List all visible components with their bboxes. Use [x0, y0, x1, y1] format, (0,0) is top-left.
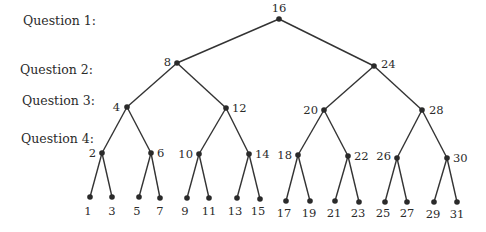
edge-30-29 — [434, 158, 447, 202]
edge-28-30 — [422, 110, 447, 158]
tree-node-8 — [174, 60, 180, 66]
edge-22-21 — [335, 156, 348, 201]
tree-node-24 — [371, 63, 377, 69]
tree-node-23 — [356, 199, 362, 205]
nodes-layer — [87, 16, 460, 205]
node-label-26: 26 — [376, 149, 391, 163]
tree-node-10 — [196, 151, 202, 157]
question-4-label: Question 4: — [21, 131, 94, 146]
edge-24-20 — [324, 66, 374, 110]
node-label-30: 30 — [453, 151, 468, 165]
node-label-20: 20 — [303, 103, 318, 117]
node-label-4: 4 — [113, 100, 120, 114]
tree-node-12 — [223, 105, 229, 111]
tree-node-2 — [99, 150, 105, 156]
tree-node-26 — [394, 155, 400, 161]
tree-node-14 — [246, 151, 252, 157]
node-label-27: 27 — [400, 206, 415, 220]
node-label-18: 18 — [277, 148, 292, 162]
edge-28-26 — [397, 110, 422, 158]
edge-16-24 — [279, 19, 374, 66]
node-label-7: 7 — [156, 204, 163, 218]
question-labels-layer: Question 1: Question 2: Question 3: Ques… — [20, 13, 96, 146]
tree-node-29 — [431, 199, 437, 205]
edge-10-11 — [199, 154, 209, 198]
node-label-25: 25 — [376, 206, 391, 220]
node-label-31: 31 — [450, 207, 465, 221]
node-label-22: 22 — [354, 149, 369, 163]
edge-4-6 — [127, 107, 151, 153]
node-label-2: 2 — [89, 146, 96, 160]
edge-18-19 — [298, 155, 310, 201]
node-label-19: 19 — [302, 206, 317, 220]
question-1-label: Question 1: — [23, 13, 96, 28]
tree-node-7 — [157, 195, 163, 201]
tree-node-16 — [276, 16, 282, 22]
node-label-3: 3 — [108, 204, 115, 218]
edge-16-8 — [177, 19, 279, 63]
tree-node-6 — [148, 150, 154, 156]
tree-node-11 — [206, 195, 212, 201]
tree-node-18 — [295, 152, 301, 158]
node-label-1: 1 — [84, 204, 91, 218]
edge-26-25 — [385, 158, 397, 202]
tree-node-20 — [321, 107, 327, 113]
tree-node-30 — [444, 155, 450, 161]
tree-node-5 — [136, 194, 142, 200]
edge-2-3 — [102, 153, 112, 197]
tree-node-27 — [404, 199, 410, 205]
tree-node-25 — [382, 199, 388, 205]
node-label-17: 17 — [277, 206, 292, 220]
node-label-6: 6 — [157, 146, 164, 160]
edges-layer — [90, 19, 457, 202]
node-label-11: 11 — [202, 204, 217, 218]
edge-20-22 — [324, 110, 348, 156]
node-label-8: 8 — [164, 55, 171, 69]
edge-24-28 — [374, 66, 422, 110]
node-label-9: 9 — [181, 204, 188, 218]
tree-node-9 — [184, 195, 190, 201]
tree-node-22 — [345, 153, 351, 159]
node-label-21: 21 — [327, 206, 342, 220]
edge-6-5 — [139, 153, 151, 197]
tree-node-15 — [257, 196, 263, 202]
edge-8-12 — [177, 63, 226, 108]
node-label-16: 16 — [272, 1, 287, 15]
node-label-5: 5 — [133, 204, 140, 218]
node-label-29: 29 — [426, 207, 441, 221]
edge-14-13 — [237, 154, 249, 198]
tree-node-28 — [419, 107, 425, 113]
tree-node-3 — [109, 194, 115, 200]
tree-node-1 — [87, 194, 93, 200]
node-label-12: 12 — [232, 101, 247, 115]
node-label-23: 23 — [351, 206, 366, 220]
node-label-13: 13 — [228, 204, 243, 218]
edge-8-4 — [127, 63, 177, 107]
question-3-label: Question 3: — [22, 93, 95, 108]
tree-node-31 — [454, 199, 460, 205]
edge-12-10 — [199, 108, 226, 154]
node-label-15: 15 — [251, 204, 266, 218]
node-label-10: 10 — [178, 147, 193, 161]
tree-node-21 — [332, 198, 338, 204]
binary-tree-diagram: 1682441220282610141822263013579111315171… — [0, 0, 486, 232]
node-label-24: 24 — [381, 57, 396, 71]
node-label-14: 14 — [255, 147, 270, 161]
tree-node-17 — [283, 198, 289, 204]
edge-26-27 — [397, 158, 407, 202]
tree-node-13 — [234, 195, 240, 201]
node-label-28: 28 — [429, 103, 444, 117]
tree-node-19 — [307, 198, 313, 204]
tree-node-4 — [124, 104, 130, 110]
question-2-label: Question 2: — [20, 62, 93, 77]
tree-canvas: 1682441220282610141822263013579111315171… — [0, 0, 486, 232]
